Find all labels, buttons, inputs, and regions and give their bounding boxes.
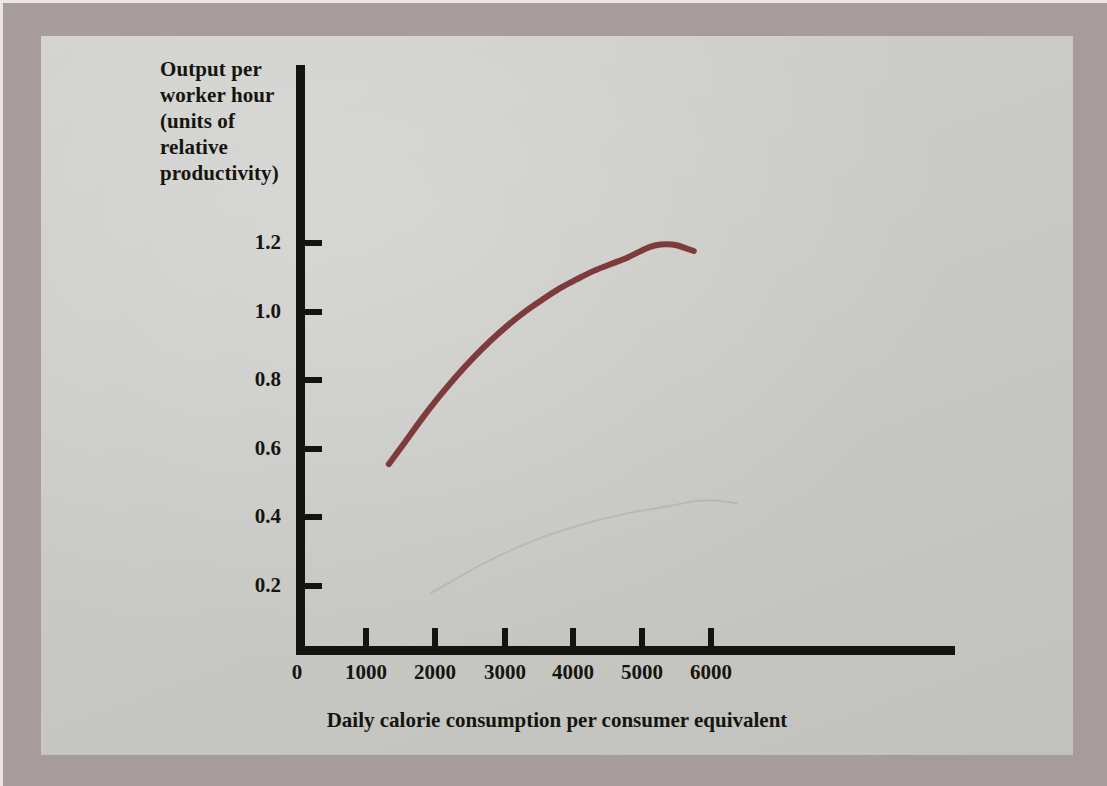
x-tick-mark bbox=[570, 628, 576, 646]
y-tick-mark bbox=[305, 309, 322, 315]
y-tick-mark bbox=[305, 583, 322, 589]
y-tick-mark bbox=[305, 377, 322, 383]
x-tick-mark bbox=[502, 628, 508, 646]
y-axis-title-line-3: (units of bbox=[160, 108, 310, 134]
y-axis-title: Output per worker hour (units of relativ… bbox=[160, 56, 310, 186]
y-tick-label: 1.0 bbox=[211, 299, 281, 324]
y-axis-title-line-1: Output per bbox=[160, 56, 310, 82]
y-tick-label: 1.2 bbox=[211, 230, 281, 255]
y-tick-label: 0.8 bbox=[211, 367, 281, 392]
y-tick-label: 0.2 bbox=[211, 573, 281, 598]
x-tick-label: 6000 bbox=[666, 660, 756, 685]
x-tick-mark bbox=[432, 628, 438, 646]
y-tick-label: 0.4 bbox=[211, 504, 281, 529]
y-tick-label: 0.6 bbox=[211, 436, 281, 461]
y-tick-mark bbox=[305, 514, 322, 520]
y-axis-title-line-4: relative bbox=[160, 134, 310, 160]
y-axis-title-line-5: productivity) bbox=[160, 160, 310, 186]
x-axis-title: Daily calorie consumption per consumer e… bbox=[41, 708, 1073, 733]
y-tick-mark bbox=[305, 240, 322, 246]
x-tick-mark bbox=[363, 628, 369, 646]
y-tick-mark bbox=[305, 446, 322, 452]
figure-plate: Output per worker hour (units of relativ… bbox=[0, 0, 1107, 786]
x-axis-line bbox=[296, 646, 955, 655]
x-tick-mark bbox=[708, 628, 714, 646]
y-axis-title-line-2: worker hour bbox=[160, 82, 310, 108]
x-tick-mark bbox=[639, 628, 645, 646]
chart-panel: Output per worker hour (units of relativ… bbox=[41, 36, 1073, 755]
